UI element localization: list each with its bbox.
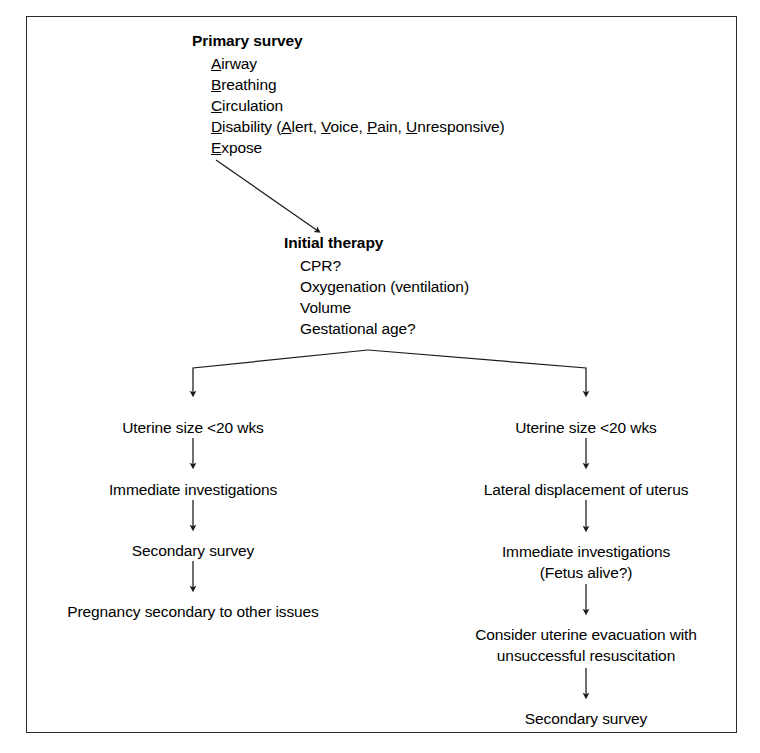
primary-survey-item-airway-rest: irway	[221, 55, 257, 72]
right-branch-node-secondary-survey: Secondary survey	[525, 708, 647, 729]
disability-sub-unresponsive-rest: nresponsive	[417, 118, 499, 135]
initial-therapy-item-cpr: CPR?	[300, 255, 341, 276]
mnemonic-letter-pain: P	[367, 118, 377, 135]
initial-therapy-item-volume: Volume	[300, 297, 351, 318]
disability-lead-rest: isability (	[222, 118, 281, 135]
right-branch-node-consider-evacuation-line1: Consider uterine evacuation with	[475, 624, 697, 645]
left-branch-node-uterine-size: Uterine size <20 wks	[122, 417, 263, 438]
primary-survey-item-circulation-rest: irculation	[222, 97, 283, 114]
mnemonic-letter-a: A	[211, 55, 221, 72]
disability-sep-1: ,	[313, 118, 321, 135]
initial-therapy-heading: Initial therapy	[284, 232, 383, 253]
mnemonic-letter-b: B	[211, 76, 221, 93]
disability-sep-2: ,	[359, 118, 367, 135]
mnemonic-letter-c: C	[211, 97, 222, 114]
primary-survey-item-airway: Airway	[211, 53, 257, 74]
primary-survey-item-breathing: Breathing	[211, 74, 276, 95]
primary-survey-heading: Primary survey	[192, 30, 303, 51]
primary-survey-item-circulation: Circulation	[211, 95, 283, 116]
mnemonic-letter-unresponsive: U	[406, 118, 417, 135]
right-branch-node-uterine-size: Uterine size <20 wks	[515, 417, 656, 438]
left-branch-node-pregnancy-secondary: Pregnancy secondary to other issues	[67, 601, 319, 622]
disability-sep-3: ,	[398, 118, 406, 135]
mnemonic-letter-e: E	[211, 139, 221, 156]
right-branch-node-consider-evacuation-line2: unsuccessful resuscitation	[497, 645, 675, 666]
disability-close-paren: )	[500, 118, 505, 135]
right-branch-node-immediate-investigations: Immediate investigations	[502, 541, 670, 562]
primary-survey-item-breathing-rest: reathing	[221, 76, 276, 93]
primary-survey-item-expose: Expose	[211, 137, 262, 158]
mnemonic-letter-alert: A	[281, 118, 291, 135]
initial-therapy-item-gestational-age: Gestational age?	[300, 318, 416, 339]
disability-sub-pain-rest: ain	[377, 118, 397, 135]
initial-therapy-item-oxygenation: Oxygenation (ventilation)	[300, 276, 469, 297]
mnemonic-letter-voice: V	[321, 118, 330, 135]
primary-survey-item-disability: Disability (Alert, Voice, Pain, Unrespon…	[211, 116, 505, 137]
disability-sub-voice-rest: oice	[331, 118, 359, 135]
mnemonic-letter-d: D	[211, 118, 222, 135]
flowchart-page: Primary survey Airway Breathing Circulat…	[0, 0, 760, 753]
primary-survey-item-expose-rest: xpose	[221, 139, 262, 156]
disability-sub-alert-rest: lert	[292, 118, 313, 135]
left-branch-node-immediate-investigations: Immediate investigations	[109, 479, 277, 500]
left-branch-node-secondary-survey: Secondary survey	[132, 540, 254, 561]
right-branch-node-lateral-displacement: Lateral displacement of uterus	[484, 479, 689, 500]
right-branch-node-fetus-alive: (Fetus alive?)	[540, 562, 633, 583]
